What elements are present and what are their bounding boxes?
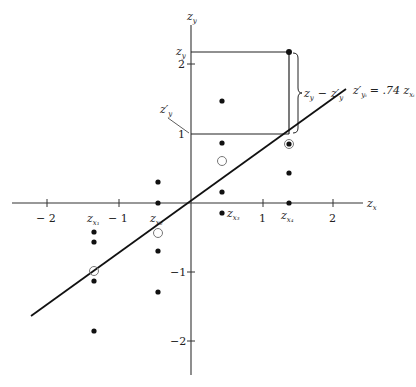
x-tick-label: − 2 bbox=[36, 212, 56, 225]
x-axis-label: zx bbox=[366, 197, 377, 212]
y-axis-label: zy bbox=[186, 10, 198, 25]
x-tick-label: 1 bbox=[259, 212, 266, 225]
zx2-label: zx₂ bbox=[149, 212, 163, 227]
zy-label: zy bbox=[175, 45, 187, 60]
regression-equation: z′yᵢ= .74 zxᵢ bbox=[352, 84, 415, 99]
y-tick-label: −2 bbox=[170, 335, 186, 348]
zx3-label: zx₃ bbox=[226, 207, 240, 222]
observed-points bbox=[91, 49, 292, 334]
scatter-regression-diagram: − 2 − 1 1 2 2 1 −1 −2 zx zy zx₁ zx₂ zx₃ … bbox=[0, 0, 416, 387]
zx4-label: zx₄ bbox=[280, 209, 294, 224]
y-tick-label: −1 bbox=[170, 266, 186, 279]
x-tick-label: − 1 bbox=[108, 212, 128, 225]
zy-prime-label: z′y bbox=[159, 103, 173, 118]
x-tick-label: 2 bbox=[329, 212, 336, 225]
zx1-label: zx₁ bbox=[86, 212, 100, 227]
y-tick-label: 1 bbox=[178, 128, 185, 141]
